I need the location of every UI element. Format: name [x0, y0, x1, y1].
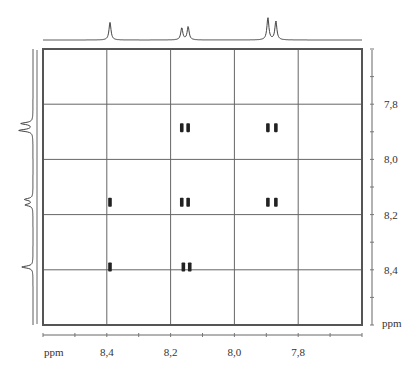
cosy-spectrum: 8,48,28,07,8 7,88,08,28,4 ppm ppm: [0, 0, 416, 369]
diagonal-peak: [180, 198, 184, 207]
x-axis-label: ppm: [44, 346, 64, 358]
diagonal-peak: [108, 263, 112, 272]
y-tick-label: 8,2: [384, 209, 398, 221]
cross-peak: [182, 263, 186, 272]
peaks-2d: [108, 123, 277, 271]
y-axis: 7,88,08,28,4: [370, 49, 398, 325]
top-projection-spectrum: [43, 18, 362, 40]
x-tick-label: 8,0: [228, 346, 242, 358]
y-axis-label: ppm: [382, 317, 402, 329]
x-tick-label: 8,4: [100, 346, 114, 358]
cross-peak: [108, 198, 112, 207]
diagonal-peak: [274, 123, 278, 132]
cross-peak: [274, 198, 278, 207]
y-tick-label: 8,0: [384, 153, 398, 165]
cross-peak: [186, 123, 190, 132]
grid: [43, 49, 362, 325]
diagonal-peak: [266, 123, 270, 132]
plot-frame: [43, 49, 362, 325]
x-axis: 8,48,28,07,8: [43, 333, 362, 358]
x-tick-label: 7,8: [291, 346, 305, 358]
x-tick-label: 8,2: [164, 346, 178, 358]
diagonal-peak: [186, 198, 190, 207]
cross-peak: [266, 198, 270, 207]
y-tick-label: 7,8: [384, 98, 398, 110]
y-tick-label: 8,4: [384, 264, 398, 276]
left-projection-spectrum: [19, 49, 33, 325]
cross-peak: [180, 123, 184, 132]
cross-peak: [188, 263, 192, 272]
